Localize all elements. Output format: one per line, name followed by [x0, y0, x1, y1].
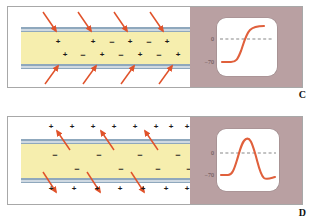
ytick-resting-c: −70: [205, 59, 214, 65]
panel-d: + + + + + + + + + + + + + + +: [7, 116, 303, 205]
charge-d-out-top-6: +: [154, 123, 159, 131]
charge-d-out-top-8: +: [185, 123, 190, 131]
charge-d-out-bot-7: +: [185, 185, 190, 193]
charge-d-out-bot-3: +: [95, 185, 100, 193]
membrane-c: + + − + − + + − + − + − +: [21, 27, 190, 69]
charge-d-out-top-3: +: [91, 123, 96, 131]
charge-d-out-bot-4: +: [118, 185, 123, 193]
charge-d-in-top-4: −: [175, 151, 180, 159]
charge-d-in-top-2: −: [96, 151, 101, 159]
panel-d-stage: + + + + + + + + + + + + + + +: [7, 116, 303, 205]
ion-influx-arrows-top-c: [21, 11, 190, 37]
charge-d-in-top-1: −: [52, 151, 57, 159]
charge-d-out-top-1: +: [49, 123, 54, 131]
panel-d-cell-diagram: + + + + + + + + + + + + + + +: [8, 117, 190, 204]
charge-c-bot-6: −: [156, 51, 161, 59]
charge-c-bot-4: −: [118, 51, 123, 59]
figure-root: + + − + − + + − + − + − +: [0, 0, 311, 223]
charge-c-bot-7: +: [176, 51, 181, 59]
panel-c-stage: + + − + − + + − + − + − +: [7, 6, 303, 88]
charge-d-in-bot-3: −: [155, 165, 160, 173]
charge-d-in-bot-1: −: [74, 165, 79, 173]
panel-c: + + − + − + + − + − + − +: [7, 6, 303, 88]
panel-d-graph-region: 0 −70: [190, 117, 302, 204]
panel-d-potential-trace: [217, 129, 279, 191]
charge-d-out-bot-5: +: [141, 185, 146, 193]
charge-d-out-top-4: +: [112, 123, 117, 131]
panel-c-graph-card: 0 −70: [217, 18, 277, 76]
charge-d-in-top-3: −: [137, 151, 142, 159]
charge-d-out-bot-1: +: [49, 185, 54, 193]
charge-d-out-top-5: +: [133, 123, 138, 131]
charge-c-top-2: +: [91, 38, 96, 46]
ion-influx-arrows-bottom-c: [21, 59, 190, 86]
charge-c-top-6: +: [165, 38, 170, 46]
charge-c-bot-2: −: [80, 51, 85, 59]
panel-c-potential-trace: [217, 18, 277, 76]
ytick-zero-c: 0: [211, 36, 214, 42]
charge-c-top-5: −: [146, 38, 151, 46]
charge-d-out-top-2: +: [70, 123, 75, 131]
charge-c-bot-5: +: [138, 51, 143, 59]
panel-d-graph-card: 0 −70: [217, 129, 279, 191]
panel-c-cell-diagram: + + − + − + + − + − + − +: [8, 7, 190, 87]
ion-efflux-arrows-top-d: [21, 125, 190, 153]
charge-d-out-bot-6: +: [164, 185, 169, 193]
panel-letter-d: D: [299, 208, 306, 218]
membrane-d: + + + + + + + + + + + + + + +: [21, 139, 190, 183]
charge-d-in-bot-2: −: [118, 165, 123, 173]
ytick-zero-d: 0: [211, 150, 214, 156]
charge-d-out-top-7: +: [169, 123, 174, 131]
charge-c-bot-1: +: [63, 51, 68, 59]
panel-c-graph-region: 0 −70: [190, 7, 302, 87]
charge-d-out-bot-2: +: [72, 185, 77, 193]
charge-c-bot-3: +: [100, 51, 105, 59]
charge-c-top-3: −: [109, 38, 114, 46]
panel-letter-c: C: [299, 90, 306, 100]
charge-c-top-1: +: [56, 38, 61, 46]
ytick-resting-d: −70: [205, 172, 214, 178]
charge-c-top-4: +: [128, 38, 133, 46]
